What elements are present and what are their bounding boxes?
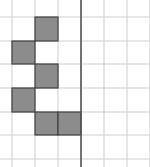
symmetry-grid <box>0 0 150 167</box>
filled-cell <box>35 17 58 41</box>
filled-cell <box>12 88 35 112</box>
filled-cell <box>35 64 58 88</box>
filled-cell <box>58 112 81 135</box>
filled-cell <box>35 112 58 135</box>
filled-cell <box>12 41 35 64</box>
